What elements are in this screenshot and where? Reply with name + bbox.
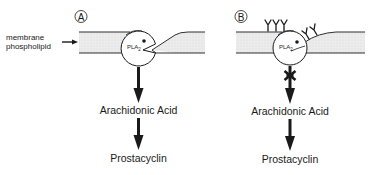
arrow-aa-to-prostacyclin-b — [285, 119, 295, 151]
panel-b-letter: B — [238, 11, 245, 22]
antibody-icon — [273, 20, 279, 31]
enzyme-subscript: 2 — [290, 47, 293, 52]
arrow-enzyme-to-aa-a — [134, 67, 144, 103]
panel-b — [235, 11, 365, 152]
enzyme-name: PLA — [127, 44, 138, 50]
prostacyclin-label-a: Prostacyclin — [110, 152, 167, 164]
pla2-label-b: PLA2 — [279, 44, 293, 52]
membrane-label-line1: membrane — [6, 33, 51, 42]
antibody-icon — [281, 20, 287, 31]
panel-a — [62, 11, 205, 151]
arrow-aa-to-prostacyclin-a — [134, 118, 144, 150]
arachidonic-acid-label-b: Arachidonic Acid — [251, 105, 329, 117]
enzyme-subscript: 2 — [138, 47, 141, 52]
membrane-right-b — [305, 32, 365, 53]
blocked-arrow-enzyme-to-aa-b — [285, 66, 296, 104]
antibody-icon — [265, 20, 271, 31]
membrane-right — [152, 32, 205, 53]
enzyme-name: PLA — [279, 44, 290, 50]
prostacyclin-label-b: Prostacyclin — [262, 153, 319, 165]
antibody-icon — [310, 24, 317, 35]
panel-a-letter: A — [78, 11, 85, 22]
arachidonic-acid-label-a: Arachidonic Acid — [100, 104, 178, 116]
membrane-pointer-arrow — [62, 40, 78, 45]
pla2-label-a: PLA2 — [127, 44, 141, 52]
pathway-diagram — [0, 0, 380, 175]
membrane-phospholipid-label: membrane phospholipid — [6, 33, 51, 51]
membrane-label-line2: phospholipid — [6, 42, 51, 51]
